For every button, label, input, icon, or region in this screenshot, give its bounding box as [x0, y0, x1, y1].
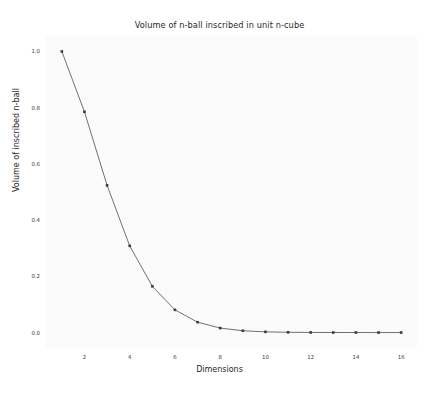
data-point: [332, 331, 335, 334]
y-tick-label: 1.0: [0, 48, 40, 54]
plot-canvas: [46, 36, 417, 348]
x-tick-label: 8: [205, 354, 235, 360]
x-axis-label: Dimensions: [0, 365, 439, 374]
data-point: [287, 331, 290, 334]
x-tick-label: 4: [115, 354, 145, 360]
x-tick-label: 6: [160, 354, 190, 360]
data-point: [242, 329, 245, 332]
x-tick-label: 2: [69, 354, 99, 360]
series-line: [62, 51, 401, 332]
data-point: [355, 331, 358, 334]
x-tick-label: 12: [296, 354, 326, 360]
data-point: [106, 184, 109, 187]
data-point: [151, 285, 154, 288]
y-tick-label: 0.0: [0, 330, 40, 336]
series-markers: [61, 50, 403, 334]
chart-figure: Volume of n-ball inscribed in unit n-cub…: [0, 0, 439, 395]
data-point: [219, 327, 222, 330]
y-tick-label: 0.2: [0, 273, 40, 279]
data-point: [377, 331, 380, 334]
x-tick-label: 16: [386, 354, 416, 360]
data-point: [61, 50, 64, 53]
x-tick-label: 14: [341, 354, 371, 360]
y-axis-label: Volume of inscribed n-ball: [12, 88, 21, 192]
data-point: [400, 331, 403, 334]
chart-title: Volume of n-ball inscribed in unit n-cub…: [0, 20, 439, 30]
y-tick-label: 0.4: [0, 217, 40, 223]
data-point: [174, 309, 177, 312]
data-point: [309, 331, 312, 334]
x-tick-label: 10: [250, 354, 280, 360]
data-point: [128, 245, 131, 248]
data-point: [264, 331, 267, 334]
data-point: [83, 110, 86, 113]
plot-area: [46, 36, 417, 348]
data-point: [196, 321, 199, 324]
